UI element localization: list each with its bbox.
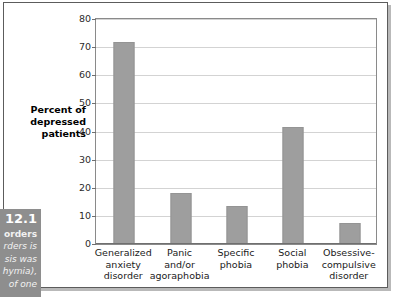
x-axis-line: [96, 243, 376, 244]
chart-area: Percent of depressed patients 0102030405…: [0, 0, 397, 297]
bar-slot: [152, 19, 208, 244]
figure-caption-number: 12.1: [5, 212, 37, 226]
bar: [226, 206, 247, 244]
y-axis-tick-label: 30: [79, 155, 91, 165]
x-axis-category-label: Obsessive-compulsivedisorder: [315, 247, 383, 282]
x-axis-category-label-line: disorder: [315, 270, 383, 282]
figure-caption-line: sis was: [3, 253, 37, 265]
y-axis-tick-label: 40: [79, 127, 91, 137]
x-axis-labels-group: GeneralizedanxietydisorderPanicand/orago…: [95, 247, 377, 293]
bar-slot: [322, 19, 378, 244]
figure-caption-line: hymia),: [3, 265, 37, 277]
bar: [339, 223, 360, 244]
bar: [283, 127, 304, 244]
bar: [114, 42, 135, 245]
y-axis-tick-label: 50: [79, 99, 91, 109]
x-axis-category-label-line: Obsessive-: [315, 247, 383, 259]
bars-group: [96, 19, 376, 244]
figure-caption-text: ordersrders issis washymia),of one: [3, 228, 37, 290]
figure-caption-line: rders is: [3, 240, 37, 252]
figure-root: Percent of depressed patients 0102030405…: [0, 0, 397, 297]
figure-caption-line: orders: [3, 228, 37, 240]
y-axis-title-line-1: Percent of: [8, 104, 86, 116]
bar: [170, 193, 191, 244]
bar-slot: [265, 19, 321, 244]
x-axis-category-label-line: agoraphobia: [145, 270, 213, 282]
y-axis-tick-label: 80: [79, 14, 91, 24]
y-axis-tick-label: 10: [79, 211, 91, 221]
x-axis-category-label-line: compulsive: [315, 259, 383, 271]
bar-slot: [209, 19, 265, 244]
y-axis-tick-label: 20: [79, 183, 91, 193]
y-axis-title: Percent of depressed patients: [8, 104, 86, 140]
figure-caption-box: 12.1 ordersrders issis washymia),of one: [0, 209, 41, 297]
y-axis-tick-label: 60: [79, 71, 91, 81]
y-axis-title-line-2: depressed: [8, 116, 86, 128]
plot-box: 01020304050607080: [95, 18, 377, 245]
y-axis-title-line-3: patients: [8, 128, 86, 140]
y-axis-tick-mark: [92, 244, 96, 245]
y-axis-tick-label: 70: [79, 42, 91, 52]
bar-slot: [96, 19, 152, 244]
figure-caption-line: of one: [3, 278, 37, 290]
